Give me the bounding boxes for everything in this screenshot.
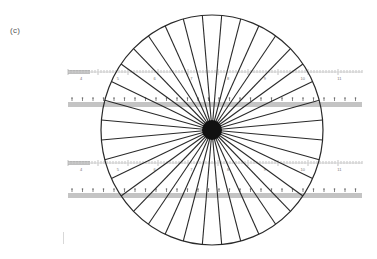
spoke-line [134, 49, 212, 130]
ruler-label: 8 [227, 76, 230, 81]
ruler-label: 11 [337, 76, 342, 81]
spoke-line [212, 130, 276, 224]
ruler-label: 7 [190, 76, 193, 81]
spoke-line [212, 64, 303, 130]
ruler-label: 6 [154, 76, 157, 81]
spoke-line [121, 64, 212, 130]
ruler-label: 4 [80, 76, 83, 81]
siemens-star [101, 15, 323, 245]
ruler-label: 7 [190, 167, 193, 172]
ruler-label: 5 [117, 167, 120, 172]
ruler-label: 9 [264, 76, 267, 81]
spoke-line [148, 130, 212, 224]
spoke-line [212, 49, 290, 130]
ruler-label: 11 [337, 167, 342, 172]
spoke-line [212, 130, 290, 211]
spoke-line [134, 130, 212, 211]
ruler-label: 10 [301, 167, 306, 172]
spoke-line [212, 36, 276, 130]
ruler-label: 10 [301, 76, 306, 81]
spoke-pattern-figure: 45678910114567891011 [0, 0, 377, 259]
ruler-label: 5 [117, 76, 120, 81]
stray-mark [63, 232, 64, 244]
ruler-bottom-band [68, 188, 362, 198]
spoke-line [148, 36, 212, 130]
center-hub [202, 120, 222, 140]
ruler-label: 4 [80, 167, 83, 172]
